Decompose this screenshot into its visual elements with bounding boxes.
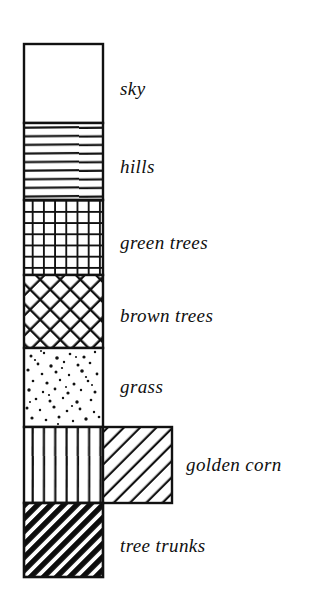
- label-hills: hills: [120, 157, 155, 176]
- swatch-golden-corn-box: [103, 427, 172, 503]
- swatch-grass: [24, 348, 103, 427]
- texture-legend-figure: sky hills green trees brown trees grass …: [0, 0, 334, 601]
- swatch-green-trees-box: [24, 200, 103, 275]
- label-green-trees: green trees: [120, 233, 208, 252]
- swatch-hills-box: [24, 123, 103, 200]
- swatch-brown-trees-box: [24, 275, 103, 348]
- label-grass: grass: [120, 377, 163, 396]
- swatch-brown-trees: [24, 275, 103, 348]
- swatch-tree-trunks: [24, 503, 103, 577]
- swatch-green-trees: [24, 200, 103, 275]
- legend-canvas: [0, 0, 334, 601]
- swatch-tree-trunks-box: [24, 503, 103, 577]
- label-brown-trees: brown trees: [120, 306, 213, 325]
- swatch-sky: [24, 44, 103, 123]
- swatch-vertical-band-box: [24, 427, 103, 503]
- swatch-golden-corn: [24, 427, 172, 503]
- swatch-hills: [24, 123, 103, 200]
- swatch-sky-box: [24, 44, 103, 123]
- label-sky: sky: [120, 79, 145, 98]
- label-golden-corn: golden corn: [186, 455, 282, 474]
- label-tree-trunks: tree trunks: [120, 536, 205, 555]
